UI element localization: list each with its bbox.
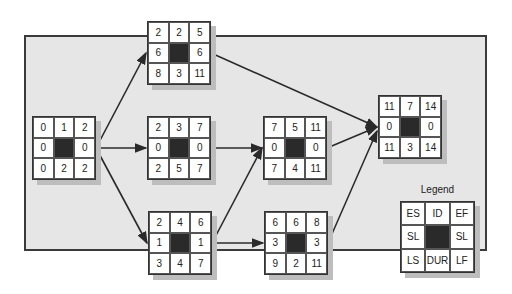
late-start: 11 [379,137,400,158]
duration: 3 [169,63,190,84]
legend-ls: LS [401,249,425,272]
critical-marker [400,117,421,138]
late-finish: 11 [305,158,326,179]
activity-node-5: 7 5 11 0 0 7 4 11 [263,116,327,180]
legend-es: ES [401,202,425,225]
duration: 4 [170,253,191,274]
critical-marker [54,138,75,159]
early-start: 6 [265,212,286,233]
legend-dur: DUR [425,249,449,272]
duration: 2 [286,253,307,274]
slack-right: 0 [189,138,210,159]
slack-right: 3 [306,233,327,254]
slack-left: 0 [148,138,169,159]
activity-node-6: 6 6 8 3 3 9 2 11 [264,211,328,275]
legend-ef: EF [450,202,474,225]
activity-id: 5 [285,117,306,138]
late-start: 3 [149,253,170,274]
late-finish: 7 [190,253,211,274]
slack-right: 0 [305,138,326,159]
critical-marker [169,138,190,159]
slack-right: 0 [74,138,95,159]
slack-left: 3 [265,233,286,254]
activity-node-1: 0 1 2 0 0 0 2 2 [32,116,96,180]
arrow-6-7 [328,131,377,243]
activity-id: 1 [54,117,75,138]
early-finish: 7 [189,117,210,138]
legend-box: ES ID EF SL SL LS DUR LF [400,201,475,273]
slack-left: 6 [148,43,169,64]
activity-id: 7 [400,96,421,117]
early-finish: 2 [74,117,95,138]
early-finish: 6 [190,212,211,233]
late-finish: 11 [306,253,327,274]
duration: 4 [285,158,306,179]
late-finish: 14 [420,137,441,158]
early-finish: 5 [189,22,210,43]
legend-critical-marker [425,225,449,248]
slack-left: 0 [264,138,285,159]
arrow-1-2 [96,53,146,148]
early-finish: 14 [420,96,441,117]
late-start: 9 [265,253,286,274]
activity-node-2: 2 2 5 6 6 8 3 11 [147,21,211,85]
early-finish: 8 [306,212,327,233]
late-finish: 2 [74,158,95,179]
slack-left: 0 [379,117,400,138]
early-start: 2 [149,212,170,233]
critical-marker [285,138,306,159]
legend-id: ID [425,202,449,225]
arrow-5-7 [327,127,377,148]
late-start: 0 [33,158,54,179]
late-start: 8 [148,63,169,84]
early-start: 11 [379,96,400,117]
early-start: 2 [148,22,169,43]
activity-id: 4 [170,212,191,233]
legend-lf: LF [450,249,474,272]
activity-node-7: 11 7 14 0 0 11 3 14 [378,95,442,159]
slack-left: 1 [149,233,170,254]
activity-id: 3 [169,117,190,138]
legend-sl-right: SL [450,225,474,248]
duration: 3 [400,137,421,158]
legend-title: Legend [400,184,475,195]
slack-right: 1 [190,233,211,254]
critical-marker [169,43,190,64]
activity-id: 2 [169,22,190,43]
duration: 2 [54,158,75,179]
critical-marker [170,233,191,254]
late-start: 7 [264,158,285,179]
late-finish: 11 [189,63,210,84]
early-start: 0 [33,117,54,138]
early-start: 7 [264,117,285,138]
arrow-4-5 [212,148,262,243]
activity-node-3: 2 3 7 0 0 2 5 7 [147,116,211,180]
duration: 5 [169,158,190,179]
activity-id: 6 [286,212,307,233]
slack-left: 0 [33,138,54,159]
legend-sl-left: SL [401,225,425,248]
late-finish: 7 [189,158,210,179]
activity-node-4: 2 4 6 1 1 3 4 7 [148,211,212,275]
arrow-1-4 [96,148,147,243]
critical-marker [286,233,307,254]
early-finish: 11 [305,117,326,138]
early-start: 2 [148,117,169,138]
slack-right: 6 [189,43,210,64]
late-start: 2 [148,158,169,179]
slack-right: 0 [420,117,441,138]
